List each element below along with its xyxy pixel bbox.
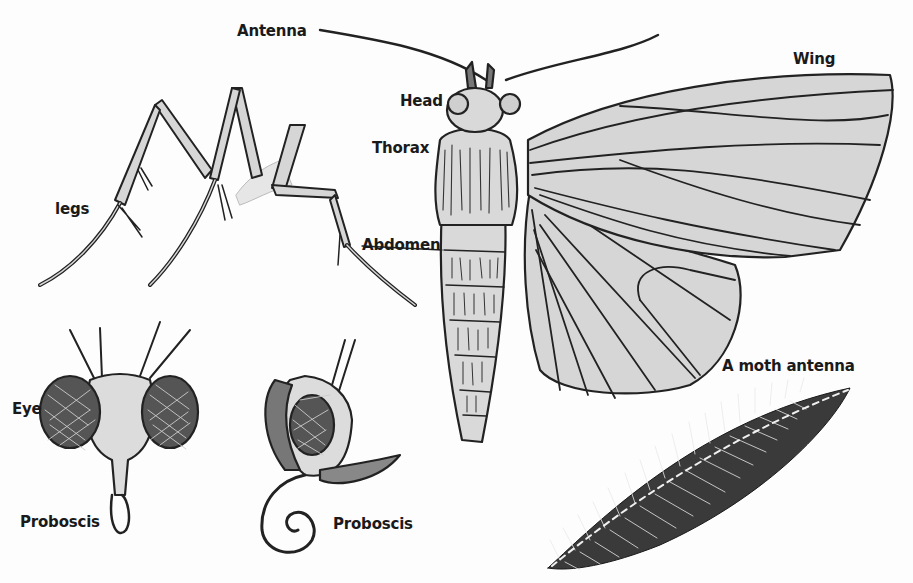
label-antenna: Antenna: [237, 22, 307, 40]
label-abdomen: Abdomen: [362, 236, 440, 254]
illustration: [0, 0, 913, 583]
label-wing: Wing: [793, 50, 835, 68]
label-moth-antenna: A moth antenna: [722, 357, 855, 375]
label-proboscis-front: Proboscis: [20, 513, 100, 531]
feathered-antenna-detail: [548, 378, 850, 570]
moth-anatomy-diagram: Antenna Head Thorax Abdomen Wing legs Ey…: [0, 0, 913, 583]
label-head: Head: [400, 92, 443, 110]
label-thorax: Thorax: [372, 139, 429, 157]
head-front-view: [40, 322, 198, 533]
label-legs: legs: [55, 200, 89, 218]
label-eye: Eye: [12, 400, 42, 418]
legs-illustration: [40, 88, 415, 305]
moth-body: [435, 62, 520, 442]
label-proboscis-side: Proboscis: [333, 515, 413, 533]
